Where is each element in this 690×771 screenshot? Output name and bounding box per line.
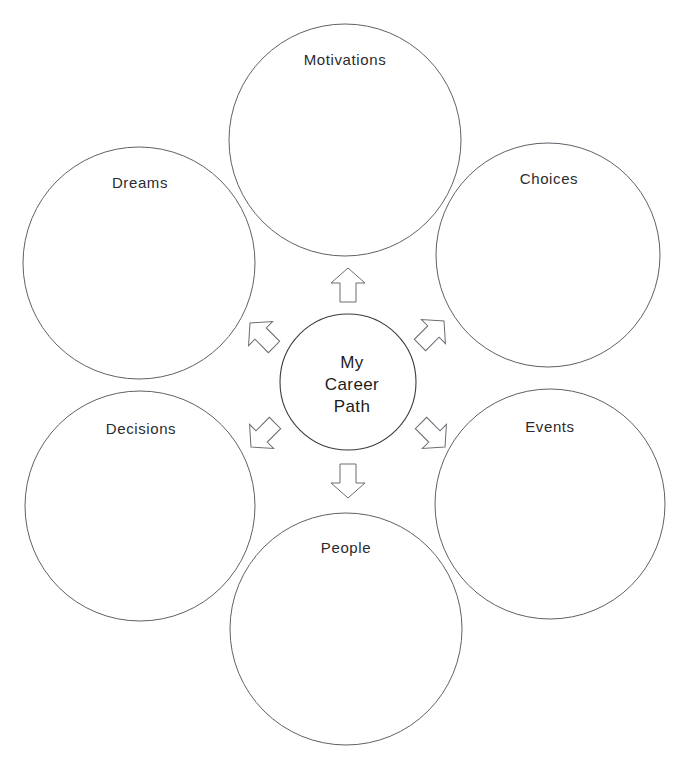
arrow-down-icon — [331, 464, 365, 498]
center-node-label-line1: My — [340, 353, 364, 372]
node-events-label: Events — [525, 418, 574, 435]
node-decisions-label: Decisions — [106, 420, 176, 437]
arrow-up-left-icon — [238, 311, 286, 359]
node-choices-label: Choices — [520, 170, 578, 187]
node-choices[interactable]: Choices — [436, 143, 660, 367]
arrow-up-right-icon — [408, 309, 456, 357]
node-dreams-label: Dreams — [112, 174, 168, 191]
node-motivations[interactable]: Motivations — [229, 24, 461, 256]
center-node[interactable]: My Career Path — [280, 314, 416, 450]
node-motivations-label: Motivations — [304, 51, 386, 68]
node-events[interactable]: Events — [435, 389, 665, 619]
node-people-label: People — [321, 539, 371, 556]
center-node-label-line3: Path — [334, 397, 371, 416]
diagram-canvas: Motivations Choices Events People Decisi… — [0, 0, 690, 771]
node-dreams[interactable]: Dreams — [23, 147, 255, 379]
career-path-diagram: Motivations Choices Events People Decisi… — [0, 0, 690, 771]
center-node-label-line2: Career — [325, 375, 379, 394]
arrow-up-icon — [331, 268, 365, 302]
arrow-down-left-icon — [239, 411, 287, 459]
node-people[interactable]: People — [230, 513, 462, 745]
node-decisions[interactable]: Decisions — [25, 391, 255, 621]
